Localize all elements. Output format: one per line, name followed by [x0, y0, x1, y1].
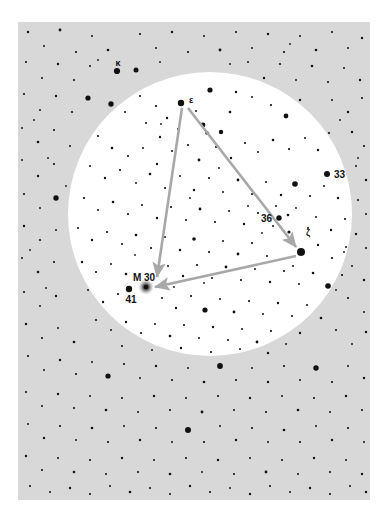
field-star [57, 63, 59, 65]
field-star [43, 45, 45, 47]
field-star [295, 207, 297, 209]
field-star [107, 49, 110, 52]
field-star [106, 231, 108, 233]
field-star [272, 225, 274, 227]
field-star [37, 175, 39, 177]
field-star [331, 99, 333, 101]
field-star [27, 31, 29, 33]
field-star [279, 63, 281, 65]
field-star [102, 301, 104, 303]
field-star [77, 227, 79, 229]
field-star [134, 68, 139, 73]
field-star [265, 471, 268, 474]
field-star [55, 229, 57, 231]
field-star [365, 491, 367, 493]
field-star [281, 395, 283, 397]
telescope-field-circle [68, 72, 352, 356]
field-star [283, 429, 286, 432]
field-star [39, 305, 41, 307]
field-star [335, 289, 337, 291]
field-star [267, 33, 269, 35]
field-star [262, 313, 264, 315]
field-star [83, 197, 85, 199]
field-star [139, 95, 141, 97]
field-star [267, 381, 269, 383]
field-star [233, 409, 235, 411]
label-epsilon: ε [189, 95, 194, 105]
field-star [25, 323, 27, 325]
field-star [201, 471, 203, 473]
field-star [329, 471, 331, 473]
field-star [357, 157, 359, 159]
field-star [218, 167, 220, 169]
field-star [170, 206, 172, 208]
field-star [299, 332, 301, 334]
field-star [135, 234, 138, 237]
field-star [320, 317, 323, 320]
label-n41: 41 [125, 294, 137, 305]
field-star [155, 365, 157, 367]
field-star [153, 459, 155, 461]
field-star [53, 195, 58, 200]
field-star [123, 425, 125, 427]
field-star [349, 485, 351, 487]
field-star [171, 150, 173, 152]
field-star [345, 246, 347, 248]
field-star [266, 255, 268, 257]
field-star [87, 289, 89, 291]
field-star [182, 275, 184, 277]
field-star [21, 159, 23, 161]
field-star [155, 427, 157, 429]
field-star [261, 232, 263, 234]
field-star [237, 253, 240, 256]
field-star [39, 207, 41, 209]
field-star [323, 185, 325, 187]
field-star [254, 268, 256, 270]
field-star [75, 51, 77, 53]
field-star [89, 493, 91, 495]
field-star [203, 441, 205, 443]
field-star [272, 139, 275, 142]
field-star [156, 217, 158, 219]
field-star [41, 405, 43, 407]
field-star [219, 425, 221, 427]
field-star [277, 302, 279, 304]
field-star [81, 261, 83, 263]
field-star [256, 341, 259, 344]
field-star [317, 149, 319, 151]
field-star [119, 169, 121, 171]
field-star [185, 219, 187, 221]
field-star [361, 97, 363, 99]
kappa-capricorni-star [114, 68, 120, 74]
field-star [171, 441, 173, 443]
field-star [365, 331, 367, 333]
field-star [117, 293, 119, 295]
field-star [97, 59, 99, 61]
field-star [195, 110, 197, 112]
field-star [95, 319, 97, 321]
field-star [265, 181, 267, 183]
field-star [89, 459, 91, 461]
field-star [89, 165, 91, 167]
field-star [233, 473, 235, 475]
field-star [21, 127, 23, 129]
field-star [149, 487, 151, 489]
field-star [41, 469, 43, 471]
field-star [27, 423, 29, 425]
field-star [37, 141, 40, 144]
field-star [91, 361, 93, 363]
field-star [207, 87, 212, 92]
field-star [187, 51, 189, 53]
field-star [123, 363, 125, 365]
field-star [110, 263, 112, 265]
field-star [291, 315, 293, 317]
field-star [151, 349, 153, 351]
field-star [39, 239, 41, 241]
field-star [65, 185, 67, 187]
field-star [269, 281, 271, 283]
field-star [173, 286, 175, 288]
field-star [53, 163, 55, 165]
field-star [313, 457, 315, 459]
field-star [97, 209, 99, 211]
field-star [244, 142, 246, 144]
